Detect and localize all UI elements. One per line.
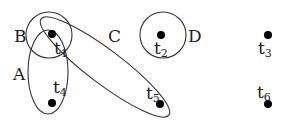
node-t6: t6 xyxy=(257,82,272,108)
node-label: t3 xyxy=(258,38,272,60)
node-t4: t4 xyxy=(48,77,67,107)
node-t2: t2 xyxy=(154,31,168,60)
node-dot xyxy=(48,30,56,38)
set-label-d: D xyxy=(188,26,202,46)
set-a-ellipse xyxy=(28,30,68,114)
node-t3: t3 xyxy=(258,31,272,60)
set-label-b: B xyxy=(14,26,27,46)
node-label: t1 xyxy=(54,38,68,60)
node-dot xyxy=(48,99,56,107)
node-t1: t1 xyxy=(48,30,68,60)
node-label: t6 xyxy=(257,82,271,104)
node-label: t2 xyxy=(154,38,168,60)
node-label: t4 xyxy=(53,77,67,99)
hypergraph-diagram: B A C D t1 t2 t3 t4 t5 t6 xyxy=(0,0,288,122)
set-label-a: A xyxy=(12,64,26,84)
set-label-c: C xyxy=(108,26,121,46)
node-dot xyxy=(264,31,272,39)
